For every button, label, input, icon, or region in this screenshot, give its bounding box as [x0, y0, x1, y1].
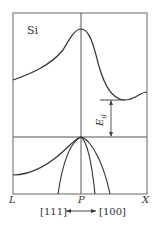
plot-frame: [13, 13, 147, 194]
material-label: Si: [27, 24, 39, 37]
conduction-band-curve: [13, 29, 147, 100]
gap-arrow-down-icon: [109, 132, 113, 137]
point-label-p: P: [77, 194, 85, 205]
direction-left-label: [111]: [40, 206, 67, 217]
valence-band-heavy-left: [13, 137, 81, 175]
valence-band-heavy-right: [81, 137, 110, 194]
band-structure-diagram: Si Eg L P X [111] [100]: [0, 0, 158, 227]
gap-label: Eg: [94, 114, 107, 127]
gap-arrow-up-icon: [109, 100, 113, 105]
arrow-right-icon: [91, 209, 96, 213]
point-label-l: L: [8, 194, 16, 205]
point-label-x: X: [141, 194, 150, 205]
valence-band-light-right: [81, 137, 95, 194]
direction-right-label: [100]: [99, 206, 126, 217]
